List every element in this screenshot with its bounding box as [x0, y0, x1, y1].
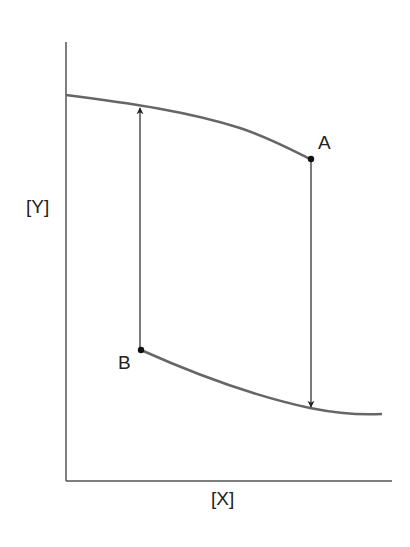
y-axis-label: [Y] [26, 197, 49, 216]
lower-curve [141, 350, 382, 414]
upper-curve [66, 95, 310, 159]
point-b-dot [138, 347, 144, 353]
point-b-label: B [118, 353, 131, 372]
diagram-canvas [0, 0, 410, 547]
x-axis-label: [X] [211, 489, 234, 508]
point-a-dot [308, 156, 314, 162]
point-a-label: A [318, 133, 331, 152]
